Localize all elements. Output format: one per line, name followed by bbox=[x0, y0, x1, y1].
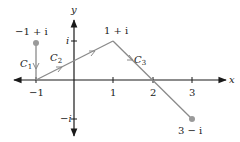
point-label-peak: 1 + i bbox=[104, 25, 128, 36]
point-label-end: 3 − i bbox=[178, 125, 202, 136]
y-axis-label: y bbox=[70, 4, 77, 15]
tick-label-neg-i: −i bbox=[60, 113, 72, 124]
tick-label-neg1: −1 bbox=[29, 87, 44, 98]
tick-label-i: i bbox=[66, 35, 69, 46]
start-point bbox=[33, 40, 39, 46]
end-point bbox=[189, 116, 195, 122]
curve-label-c2: C2 bbox=[50, 52, 62, 65]
tick-label-3: 3 bbox=[189, 87, 195, 98]
x-axis-label: x bbox=[229, 74, 235, 85]
curve-label-c1: C1 bbox=[20, 58, 32, 71]
complex-plane-diagram: x y −1 1 2 3 i −i −1 + i 1 + i 3 − i C1 … bbox=[0, 0, 240, 142]
point-label-start: −1 + i bbox=[15, 26, 48, 37]
tick-label-2: 2 bbox=[150, 87, 156, 98]
curve-label-c3: C3 bbox=[134, 54, 146, 67]
tick-label-1: 1 bbox=[110, 87, 116, 98]
